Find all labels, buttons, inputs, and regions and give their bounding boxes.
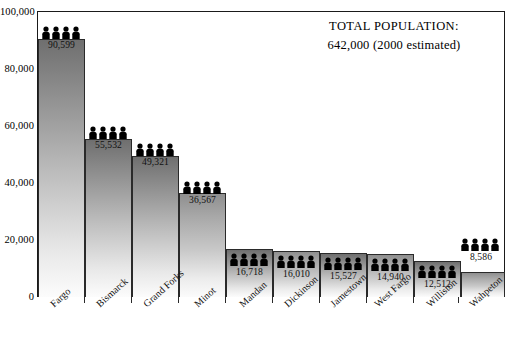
y-axis: 100,000 80,000 60,000 40,000 20,000 0: [0, 0, 34, 353]
x-tick-3: [178, 297, 179, 303]
y-tick-label-80000: 80,000: [0, 64, 34, 74]
plot-area: [38, 12, 505, 297]
population-bar-chart: 100,000 80,000 60,000 40,000 20,000 0 9: [0, 0, 520, 353]
y-tick-label-0: 0: [0, 292, 34, 302]
x-tick-4: [225, 297, 226, 303]
x-tick-8: [413, 297, 414, 303]
y-tick-label-60000: 60,000: [0, 121, 34, 131]
bar-fargo: [38, 39, 85, 297]
bar-minot: [179, 193, 226, 297]
y-tick-label-100000: 100,000: [0, 7, 34, 17]
x-tick-6: [319, 297, 320, 303]
x-tick-5: [272, 297, 273, 303]
x-tick-7: [366, 297, 367, 303]
y-tick-label-40000: 40,000: [0, 178, 34, 188]
total-population-callout: TOTAL POPULATION: 642,000 (2000 estimate…: [284, 18, 504, 53]
total-population-value: 642,000 (2000 estimated): [284, 37, 504, 53]
x-tick-9: [458, 297, 459, 303]
bar-bismarck: [85, 139, 132, 297]
y-tick-label-20000: 20,000: [0, 235, 34, 245]
total-population-heading: TOTAL POPULATION:: [284, 18, 504, 34]
x-tick-1: [84, 297, 85, 303]
x-tick-2: [131, 297, 132, 303]
